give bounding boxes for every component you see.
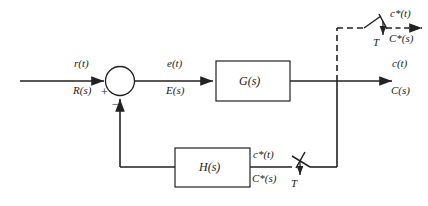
output-sampler-period-label: T: [373, 37, 379, 48]
summing-minus-sign: −: [112, 98, 119, 110]
summing-junction-circle: [106, 67, 135, 96]
output-sampler-blade: [364, 16, 381, 28]
summing-plus-sign: +: [101, 86, 108, 98]
sampled-output-laplace-label: C*(s): [389, 33, 413, 44]
block-diagram-canvas: r(t) R(s) + − e(t) E(s) G(s) H(s) c(t) C…: [0, 0, 428, 206]
feedback-sampler-period-label: T: [291, 178, 297, 189]
error-laplace-label: E(s): [166, 85, 184, 96]
input-laplace-label: R(s): [73, 85, 91, 96]
diagram-vector-layer: [0, 0, 428, 206]
feedback-transfer-block-label: H(s): [199, 161, 220, 173]
error-time-label: e(t): [167, 58, 182, 69]
feedback-sampled-time-label: c*(t): [253, 149, 274, 160]
output-time-label: c(t): [392, 58, 407, 69]
feedback-sampled-laplace-label: C*(s): [252, 173, 276, 184]
output-laplace-label: C(s): [391, 85, 410, 96]
forward-transfer-block-label: G(s): [239, 75, 260, 87]
input-time-label: r(t): [74, 58, 89, 69]
sampled-output-time-label: c*(t): [390, 8, 411, 19]
